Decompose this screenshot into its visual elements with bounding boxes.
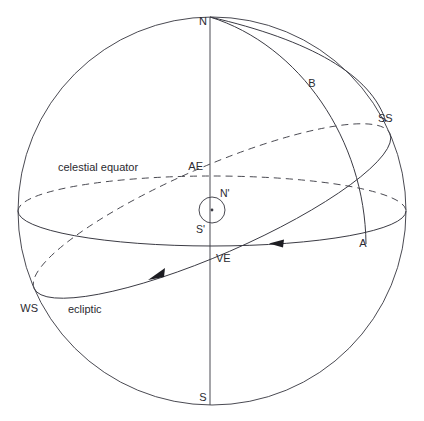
celestial-sphere-svg: N S VE AE SS WS A B N' S' celestial equa… (0, 0, 424, 421)
label-south-pole: S (199, 391, 206, 403)
label-celestial-equator: celestial equator (58, 161, 138, 173)
label-summer-solstice: SS (378, 112, 393, 124)
label-point-a: A (359, 237, 367, 249)
label-ecliptic: ecliptic (68, 303, 102, 315)
label-vernal-equinox: VE (216, 252, 231, 264)
sun-marker-dot (211, 209, 214, 212)
label-autumnal-equinox: AE (188, 160, 203, 172)
label-north-pole: N (199, 15, 207, 27)
label-south-prime: S' (196, 223, 205, 235)
celestial-sphere-figure: N S VE AE SS WS A B N' S' celestial equa… (0, 0, 424, 421)
label-north-prime: N' (220, 187, 230, 199)
label-point-b: B (308, 77, 315, 89)
label-winter-solstice: WS (20, 302, 38, 314)
